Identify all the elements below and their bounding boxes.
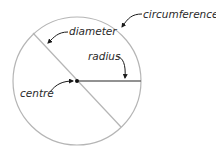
circumference-label: circumference: [143, 8, 216, 20]
radius-label: radius: [88, 50, 121, 62]
centre-label: centre: [20, 87, 54, 99]
circumference-arrow-icon: [122, 14, 142, 27]
centre-dot: [75, 79, 79, 83]
diameter-label: diameter: [69, 25, 117, 37]
diameter-arrow-icon: [48, 32, 68, 43]
circle-diagram: circumference diameter radius centre: [0, 0, 216, 156]
